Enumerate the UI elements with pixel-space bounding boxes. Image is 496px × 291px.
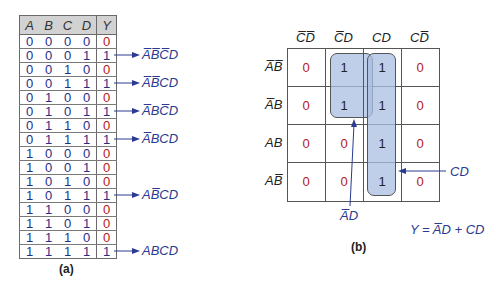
kmap-cell: 1: [363, 124, 401, 162]
kmap-cell: 1: [363, 48, 401, 86]
kmap-cell: 0: [287, 124, 325, 162]
kmap-cell: 0: [325, 162, 363, 200]
kmap-cell: 0: [287, 48, 325, 86]
equation: Y = A̅D + CD: [410, 222, 484, 237]
kmap-cell: 0: [401, 86, 439, 124]
ad-label: A̅D: [340, 208, 358, 223]
kmap-cell: 1: [363, 86, 401, 124]
kmap-cell: 0: [401, 162, 439, 200]
kmap-cell: 1: [325, 86, 363, 124]
cd-label: CD: [450, 164, 469, 179]
kmap-cell: 0: [325, 124, 363, 162]
kmap-cell: 0: [287, 86, 325, 124]
kmap-cell: 0: [287, 162, 325, 200]
kmap-cell: 1: [363, 162, 401, 200]
caption-b: (b): [351, 240, 366, 254]
kmap-cell: 0: [401, 48, 439, 86]
kmap-cell: 1: [325, 48, 363, 86]
kmap-cell: 0: [401, 124, 439, 162]
